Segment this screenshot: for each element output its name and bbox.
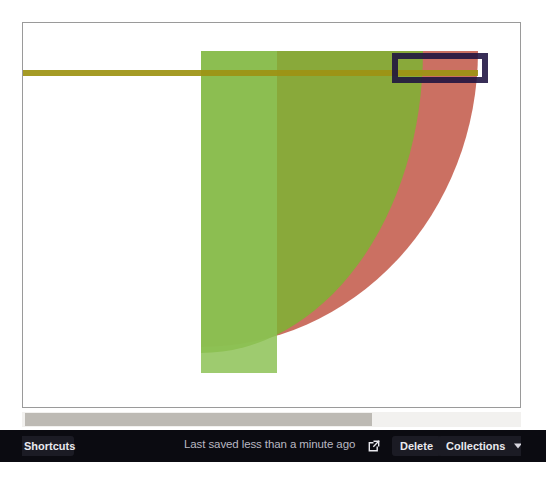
last-saved-status: Last saved less than a minute ago [184, 438, 355, 450]
shortcuts-button-label: Shortcuts [24, 440, 75, 452]
horizontal-scrollbar-track[interactable] [22, 412, 521, 427]
delete-button[interactable]: Delete [392, 436, 441, 456]
toolbar-bleed-right [519, 430, 546, 462]
bottom-toolbar: Shortcuts Last saved less than a minute … [22, 430, 521, 462]
horizontal-scrollbar-thumb[interactable] [25, 413, 372, 426]
collections-dropdown-button[interactable]: Collections [438, 436, 521, 456]
open-external-button[interactable] [364, 436, 384, 456]
series-olive-threshold-line [23, 70, 478, 76]
delete-button-label: Delete [400, 440, 433, 452]
chevron-down-icon [514, 444, 521, 449]
series-light-green-band [201, 51, 277, 373]
toolbar-bleed-left [0, 430, 24, 462]
collections-button-label: Collections [446, 440, 505, 452]
app-root: Shortcuts Last saved less than a minute … [0, 0, 546, 483]
plot-canvas[interactable] [23, 23, 521, 408]
chart-panel[interactable] [22, 22, 521, 408]
external-link-icon [368, 440, 380, 452]
shortcuts-button[interactable]: Shortcuts [22, 436, 74, 456]
